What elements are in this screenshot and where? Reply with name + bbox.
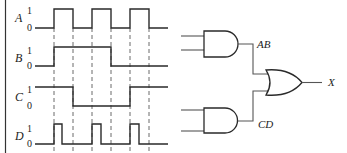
waveform-b	[35, 47, 168, 66]
signal-a: A 1 0	[14, 5, 168, 33]
level-high-d: 1	[27, 123, 32, 134]
waveform-a	[35, 9, 168, 28]
net-label-cd: CD	[258, 118, 273, 130]
level-low-d: 0	[27, 138, 32, 149]
level-high-a: 1	[27, 5, 32, 16]
level-low-a: 0	[27, 22, 32, 33]
waveform-d	[35, 124, 168, 144]
signal-label-a: A	[14, 11, 23, 25]
waveform-c	[35, 87, 168, 106]
level-low-c: 0	[27, 100, 32, 111]
logic-circuit: AB CD X	[181, 31, 336, 133]
timing-and-logic-diagram: A 1 0 B 1 0 C 1 0 D 1 0 AB CD	[0, 0, 347, 153]
level-high-c: 1	[27, 84, 32, 95]
signal-c: C 1 0	[15, 84, 168, 111]
signal-d: D 1 0	[14, 123, 168, 149]
level-high-b: 1	[27, 45, 32, 56]
net-label-x: X	[327, 76, 336, 88]
signal-label-d: D	[14, 129, 24, 143]
and-gate-cd-icon	[204, 108, 238, 133]
signal-label-b: B	[15, 51, 23, 65]
signal-b: B 1 0	[15, 45, 168, 71]
and-gate-ab-icon	[204, 31, 238, 57]
signal-label-c: C	[15, 90, 24, 104]
or-gate-icon	[266, 70, 302, 95]
level-low-b: 0	[27, 60, 32, 71]
net-label-ab: AB	[256, 38, 271, 50]
